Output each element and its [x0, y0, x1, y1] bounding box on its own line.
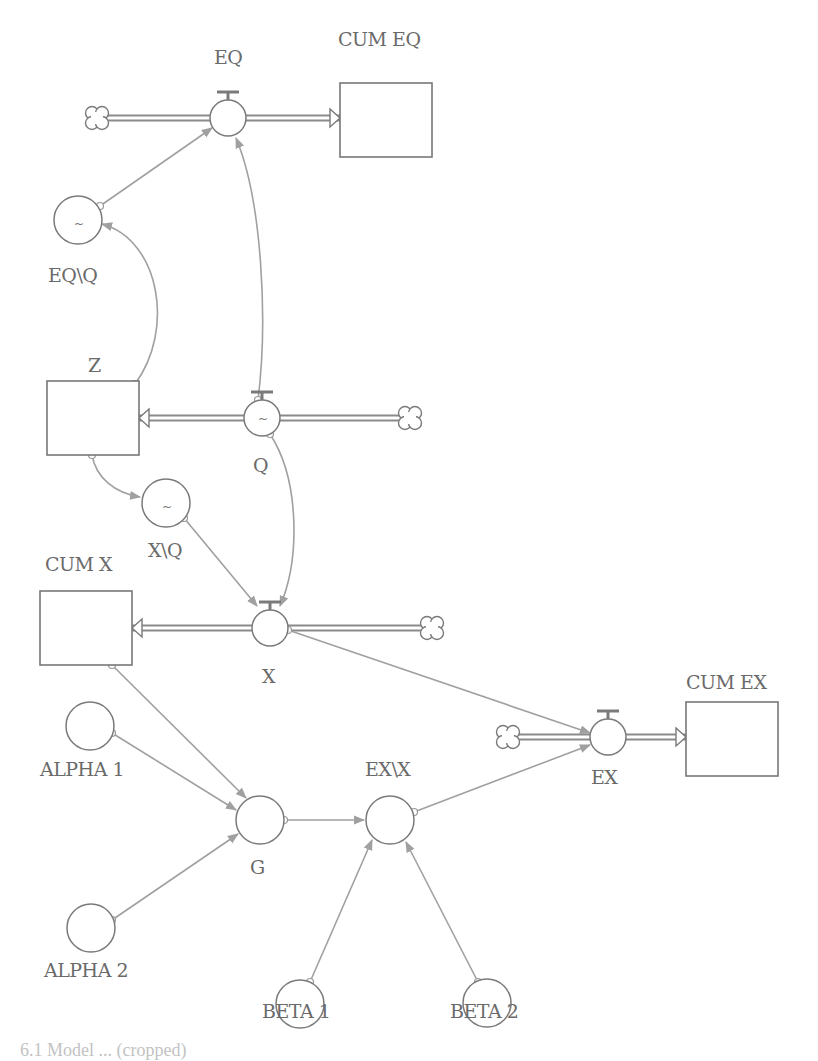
flow-label-x: X	[262, 665, 276, 687]
converter-g[interactable]	[236, 796, 284, 844]
flow-label-ex: EX	[591, 766, 618, 788]
connector-beta2-to-exx[interactable]	[406, 842, 478, 982]
flow-arrowhead-icon	[330, 109, 340, 127]
graphical-function-icon: ~	[162, 500, 172, 514]
connector-alpha1-to-g[interactable]	[112, 733, 236, 810]
connector-q-to-eq[interactable]	[236, 138, 263, 400]
converter-label-beta-1: BETA 1	[262, 1000, 330, 1022]
connector-z-to-xq[interactable]	[92, 455, 140, 497]
labels: CUM EQZCUM XCUM EXEQQXEXEQ\QX\QALPHA 1AL…	[39, 28, 767, 1022]
converter-label-alpha-1: ALPHA 1	[39, 758, 124, 780]
flow-arrowhead-icon	[139, 409, 149, 427]
connector-x-to-ex[interactable]	[288, 630, 590, 733]
converter-ex-x[interactable]	[366, 796, 414, 844]
converter-alpha-2[interactable]	[67, 904, 115, 952]
cloud-source-icon	[497, 726, 520, 749]
converter-label-alpha-2: ALPHA 2	[43, 959, 128, 981]
flow-valve-eq[interactable]	[210, 92, 246, 136]
flow-pipes	[86, 107, 687, 749]
cloud-source-icon	[399, 407, 422, 430]
flow-valve-x[interactable]	[252, 602, 288, 646]
flow-label-eq: EQ	[214, 46, 242, 68]
flow-arrowhead-icon	[132, 619, 142, 637]
connector-cumx-to-g[interactable]	[112, 665, 246, 798]
connector-beta1-to-exx[interactable]	[310, 840, 372, 982]
cloud-source-icon	[86, 107, 109, 130]
connector-alpha2-to-g[interactable]	[112, 834, 238, 920]
stock-cum-x[interactable]	[40, 591, 132, 665]
stock-label-cum-eq: CUM EQ	[338, 28, 421, 50]
connector-q-to-x[interactable]	[270, 434, 294, 606]
stock-z[interactable]	[47, 381, 139, 455]
connector-z-to-eqq[interactable]	[102, 224, 157, 384]
graphical-function-icon: ~	[74, 217, 84, 231]
converter-alpha-1[interactable]	[66, 702, 114, 750]
converter-label-g: G	[250, 856, 265, 878]
cloud-source-icon	[421, 617, 444, 640]
converter-label-beta-2: BETA 2	[450, 1000, 518, 1022]
figure-caption: 6.1 Model ... (cropped)	[20, 1040, 186, 1061]
stock-label-cum-ex: CUM EX	[686, 671, 767, 693]
converter-x-q[interactable]: ~	[142, 479, 190, 527]
stock-label-z: Z	[88, 354, 101, 376]
stock-cum-ex[interactable]	[686, 702, 778, 776]
converter-label-eq-q: EQ\Q	[48, 264, 97, 286]
connector-exx-to-ex[interactable]	[414, 745, 590, 812]
flow-label-q: Q	[253, 454, 268, 476]
converter-label-x-q: X\Q	[148, 539, 182, 561]
converter-label-ex-x: EX\X	[365, 758, 411, 780]
stock-cum-eq[interactable]	[340, 83, 432, 157]
flow-valve-ex[interactable]	[590, 711, 626, 755]
stock-label-cum-x: CUM X	[45, 553, 113, 575]
graphical-function-icon: ~	[258, 412, 268, 426]
flow-arrowhead-icon	[676, 728, 686, 746]
connector-eqq-to-eq[interactable]	[100, 128, 212, 206]
connector-xq-to-x[interactable]	[184, 518, 257, 606]
flow-valve-q[interactable]: ~	[244, 392, 280, 436]
converter-eq-q[interactable]: ~	[54, 196, 102, 244]
